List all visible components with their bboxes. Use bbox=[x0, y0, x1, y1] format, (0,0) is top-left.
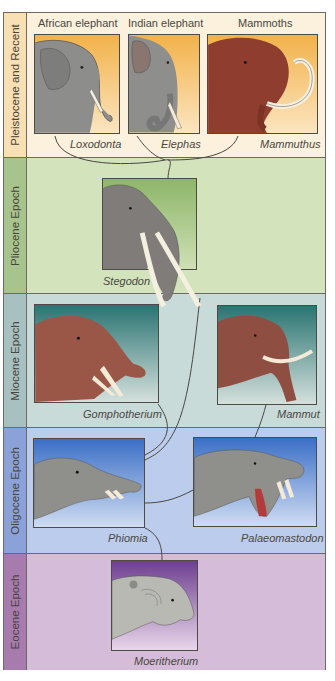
mammut-head-icon bbox=[218, 306, 316, 404]
epoch-label-column: Oligocene Epoch bbox=[4, 428, 27, 553]
common-name-african-elephant: African elephant bbox=[38, 17, 118, 29]
gomphotherium-head-icon bbox=[35, 305, 158, 402]
phiomia-illustration bbox=[33, 438, 145, 528]
african-elephant-head-icon bbox=[35, 35, 119, 133]
epoch-label: Pleistocene and Recent bbox=[9, 24, 21, 145]
genus-palaeomastodon: Palaeomastodon bbox=[241, 532, 324, 544]
stegodon-illustration bbox=[102, 178, 197, 270]
african-elephant-illustration bbox=[34, 34, 120, 134]
genus-mammut: Mammut bbox=[277, 408, 320, 420]
genus-loxodonta: Loxodonta bbox=[70, 138, 121, 150]
common-name-mammoths: Mammoths bbox=[238, 17, 292, 29]
epoch-label: Miocene Epoch bbox=[9, 321, 21, 400]
common-name-indian-elephant: Indian elephant bbox=[128, 17, 203, 29]
mammoth-head-icon bbox=[208, 35, 317, 133]
epoch-label-column: Pliocene Epoch bbox=[4, 158, 27, 293]
palaeomastodon-illustration bbox=[193, 437, 317, 527]
indian-elephant-illustration bbox=[128, 34, 200, 134]
gomphotherium-illustration bbox=[34, 304, 159, 403]
genus-elephas: Elephas bbox=[161, 138, 201, 150]
genus-gomphotherium: Gomphotherium bbox=[83, 408, 162, 420]
stegodon-head-icon bbox=[103, 179, 196, 269]
genus-moeritherium: Moeritherium bbox=[134, 655, 198, 667]
genus-mammuthus: Mammuthus bbox=[260, 138, 321, 150]
genus-stegodon: Stegodon bbox=[103, 275, 150, 287]
epoch-label-column: Miocene Epoch bbox=[4, 294, 27, 427]
epoch-label-column: Eocene Epoch bbox=[4, 554, 27, 670]
phiomia-head-icon bbox=[34, 439, 144, 527]
moeritherium-head-icon bbox=[112, 561, 197, 650]
epoch-label: Oligocene Epoch bbox=[9, 447, 21, 535]
genus-phiomia: Phiomia bbox=[108, 532, 148, 544]
moeritherium-illustration bbox=[111, 560, 198, 651]
epoch-label: Eocene Epoch bbox=[9, 575, 21, 650]
epoch-label-column: Pleistocene and Recent bbox=[4, 13, 27, 157]
mammut-illustration bbox=[217, 305, 317, 405]
indian-elephant-head-icon bbox=[129, 35, 199, 133]
mammoth-illustration bbox=[207, 34, 318, 134]
epoch-label: Pliocene Epoch bbox=[9, 186, 21, 266]
palaeomastodon-head-icon bbox=[194, 438, 316, 526]
